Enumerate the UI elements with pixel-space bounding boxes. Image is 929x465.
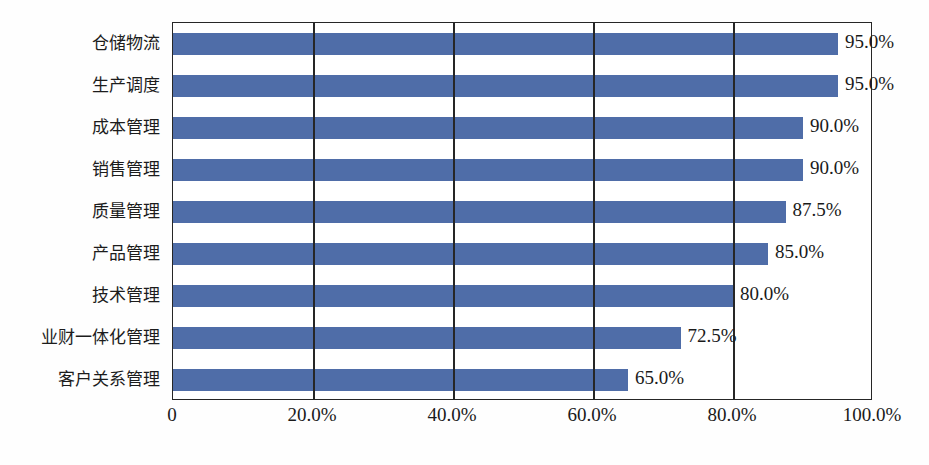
bar-row [173,317,871,359]
plot-area [172,22,872,400]
bar-row [173,65,871,107]
bar-row [173,149,871,191]
x-tick-label: 100.0% [843,404,902,426]
bar-value-label: 90.0% [810,157,859,179]
bar-value-label: 72.5% [688,325,737,347]
category-label: 客户关系管理 [0,358,160,400]
bar-value-label: 90.0% [810,115,859,137]
category-label: 质量管理 [0,190,160,232]
category-label: 成本管理 [0,106,160,148]
bar-value-label: 85.0% [775,241,824,263]
category-label: 仓储物流 [0,22,160,64]
x-tick-label: 20.0% [287,404,336,426]
x-tick-label: 60.0% [567,404,616,426]
category-label: 生产调度 [0,64,160,106]
bar[interactable] [173,33,838,55]
x-tick-label: 80.0% [707,404,756,426]
bar-row [173,233,871,275]
category-label: 技术管理 [0,274,160,316]
category-axis: 仓储物流生产调度成本管理销售管理质量管理产品管理技术管理业财一体化管理客户关系管… [0,22,160,400]
bar-value-label: 95.0% [845,31,894,53]
bar[interactable] [173,243,768,265]
bar-value-label: 87.5% [793,199,842,221]
bar-row [173,359,871,401]
bar[interactable] [173,75,838,97]
bar-row [173,107,871,149]
gridline [453,23,455,399]
bar-value-label: 95.0% [845,73,894,95]
bar[interactable] [173,201,786,223]
bar-row [173,191,871,233]
bar-row [173,23,871,65]
bar-chart-figure: 仓储物流生产调度成本管理销售管理质量管理产品管理技术管理业财一体化管理客户关系管… [0,0,929,465]
x-axis-tick-labels: 020.0%40.0%60.0%80.0%100.0% [0,404,929,438]
gridline [593,23,595,399]
x-tick-label: 40.0% [427,404,476,426]
bar[interactable] [173,327,681,349]
category-label: 产品管理 [0,232,160,274]
bar-value-label: 65.0% [635,367,684,389]
bar-value-label: 80.0% [740,283,789,305]
x-tick-label: 0 [167,404,177,426]
category-label: 业财一体化管理 [0,316,160,358]
bar[interactable] [173,159,803,181]
bar[interactable] [173,369,628,391]
gridline [313,23,315,399]
bar[interactable] [173,117,803,139]
category-label: 销售管理 [0,148,160,190]
